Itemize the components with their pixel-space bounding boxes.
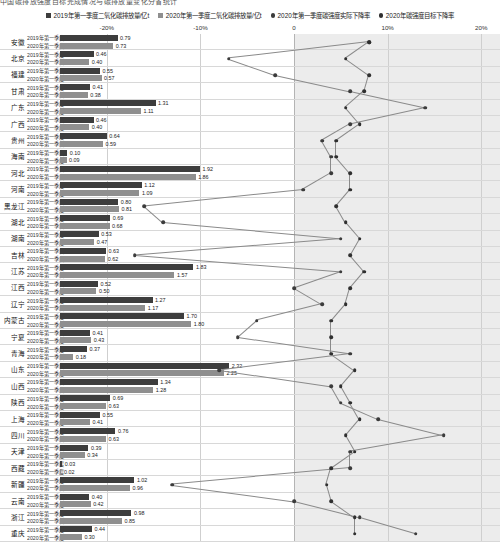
bar-2019 — [60, 182, 142, 188]
actual-rate-point — [339, 270, 343, 274]
actual-rate-point — [348, 352, 352, 356]
year-subrow: 2020年第一季度0.41 — [27, 419, 500, 427]
year-subrow: 2020年第一季度1.80 — [27, 320, 500, 328]
bar-value-label: 0.55 — [103, 68, 114, 74]
year-label: 2020年第一季度 — [27, 386, 59, 394]
province-row: 贵州2019年第一季度0.642020年第一季度0.59 — [0, 132, 500, 148]
province-row: 宁夏2019年第一季度0.412020年第一季度0.43 — [0, 329, 500, 345]
bar-value-label: 0.30 — [84, 534, 95, 540]
bar-value-label: 0.73 — [116, 43, 127, 49]
legend-actual-rate[interactable]: 2020年第一季度碳强度实际下降率 — [271, 11, 370, 20]
year-subrow: 2020年第一季度0.50 — [27, 287, 500, 295]
year-label: 2020年第一季度 — [27, 74, 59, 82]
province-label: 青海 — [0, 345, 27, 360]
bar-value-label: 0.68 — [112, 223, 123, 229]
bar-2019 — [60, 199, 118, 205]
year-subrow: 2020年第一季度0.63 — [27, 402, 500, 410]
bar-value-label: 1.09 — [142, 190, 153, 196]
year-subrow: 2019年第一季度1.31 — [27, 100, 500, 108]
legend-2019-emissions[interactable]: 2019年第一季度二氧化碳排放量/亿t — [46, 11, 149, 20]
actual-rate-point — [358, 516, 362, 520]
year-label: 2020年第一季度 — [27, 287, 59, 295]
bar-2020 — [60, 43, 113, 49]
legend-square-icon — [46, 13, 51, 18]
actual-rate-point — [255, 319, 259, 323]
bar-2020 — [60, 452, 85, 458]
bar-2020 — [60, 256, 105, 262]
year-subrow: 2020年第一季度0.96 — [27, 484, 500, 492]
bar-value-label: 0.18 — [76, 354, 87, 360]
legend-2020-emissions[interactable]: 2020年第一季度二氧化碳排放量/亿t — [158, 11, 261, 20]
bar-value-label: 0.63 — [108, 403, 119, 409]
year-subrow: 2019年第一季度0.39 — [27, 444, 500, 452]
bar-2019 — [60, 510, 131, 516]
bar-value-label: 0.46 — [96, 51, 107, 57]
bar-value-label: 0.64 — [109, 133, 120, 139]
bar-value-label: 0.52 — [100, 281, 111, 287]
bar-2020 — [60, 174, 196, 180]
top-strip-text: 中国碳排放强度目标完成情况与碳排放量变化分省统计 — [0, 0, 178, 5]
year-label: 2020年第一季度 — [27, 271, 59, 279]
province-label: 河北 — [0, 165, 27, 180]
bar-2020 — [60, 288, 96, 294]
province-row: 陕西2019年第一季度0.692020年第一季度0.63 — [0, 395, 500, 411]
province-row: 福建2019年第一季度0.552020年第一季度0.57 — [0, 67, 500, 83]
province-row: 甘肃2019年第一季度0.412020年第一季度0.38 — [0, 83, 500, 99]
bar-value-label: 0.09 — [69, 157, 80, 163]
bar-2019 — [60, 461, 62, 467]
province-label: 河南 — [0, 181, 27, 196]
province-label: 吉林 — [0, 247, 27, 262]
bar-value-label: 0.38 — [90, 92, 101, 98]
legend-target-rate[interactable]: 2020年碳强度目标下降率 — [379, 11, 454, 20]
bar-2019 — [60, 363, 229, 369]
bar-2020 — [60, 518, 122, 524]
year-label: 2019年第一季度 — [27, 526, 59, 534]
year-label: 2020年第一季度 — [27, 517, 59, 525]
legend-label: 2019年第一季度二氧化碳排放量/亿t — [54, 11, 150, 20]
year-label: 2020年第一季度 — [27, 91, 59, 99]
province-label: 上海 — [0, 411, 27, 426]
year-label: 2019年第一季度 — [27, 116, 59, 124]
year-label: 2019年第一季度 — [27, 395, 59, 403]
province-row: 湖北2019年第一季度0.692020年第一季度0.68 — [0, 214, 500, 230]
target-rate-point — [353, 450, 357, 454]
bar-value-label: 0.47 — [97, 239, 108, 245]
target-rate-point — [330, 499, 334, 503]
bar-value-label: 0.40 — [92, 494, 103, 500]
bar-value-label: 0.76 — [118, 428, 129, 434]
province-label: 山东 — [0, 362, 27, 377]
actual-rate-point — [348, 122, 352, 126]
bar-2020 — [60, 157, 67, 163]
bar-value-label: 1.80 — [194, 321, 205, 327]
year-label: 2019年第一季度 — [27, 50, 59, 58]
year-subrow: 2020年第一季度0.59 — [27, 140, 500, 148]
target-rate-point — [353, 532, 357, 536]
target-rate-point — [348, 171, 352, 175]
year-subrow: 2020年第一季度0.40 — [27, 58, 500, 66]
province-label: 广西 — [0, 116, 27, 131]
year-label: 2019年第一季度 — [27, 149, 59, 157]
actual-rate-point — [330, 171, 334, 175]
legend-dot-icon — [379, 13, 384, 18]
target-rate-point — [348, 401, 352, 405]
province-row: 黑龙江2019年第一季度0.802020年第一季度0.81 — [0, 198, 500, 214]
actual-rate-point — [320, 139, 324, 143]
bar-value-label: 0.80 — [121, 199, 132, 205]
province-label: 湖南 — [0, 231, 27, 246]
bar-2020 — [60, 419, 90, 425]
year-label: 2019年第一季度 — [27, 378, 59, 386]
bar-value-label: 1.12 — [144, 182, 155, 188]
year-subrow: 2019年第一季度0.69 — [27, 214, 500, 222]
year-label: 2020年第一季度 — [27, 238, 59, 246]
year-subrow: 2019年第一季度1.12 — [27, 181, 500, 189]
province-label: 四川 — [0, 427, 27, 442]
bar-value-label: 0.63 — [108, 248, 119, 254]
x-axis-tick: 10% — [381, 24, 393, 31]
bar-2020 — [60, 206, 119, 212]
year-label: 2019年第一季度 — [27, 411, 59, 419]
province-row: 四川2019年第一季度0.762020年第一季度0.63 — [0, 427, 500, 443]
year-subrow: 2019年第一季度0.41 — [27, 329, 500, 337]
bar-value-label: 0.34 — [87, 452, 98, 458]
target-rate-point — [348, 286, 352, 290]
bar-2020 — [60, 485, 130, 491]
